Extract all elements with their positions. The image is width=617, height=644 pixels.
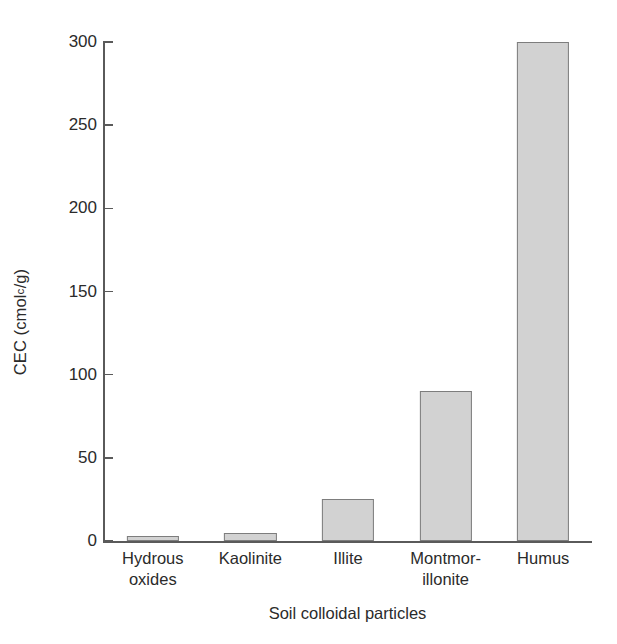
x-category-label: Hydrousoxides: [104, 548, 202, 590]
bar[interactable]: [419, 391, 471, 541]
x-category-label-line2: oxides: [104, 569, 202, 590]
y-tick-label: 150: [41, 282, 97, 302]
bar-slot: [104, 42, 202, 541]
y-tick-label: 250: [41, 115, 97, 135]
x-category-label: Humus: [494, 548, 592, 569]
x-category-label-line1: Illite: [333, 549, 362, 567]
y-axis-title: CEC (cmolc/g): [0, 0, 40, 644]
x-category-label-line1: Hydrous: [122, 549, 183, 567]
x-category-label: Montmor-illonite: [397, 548, 495, 590]
x-category-label-line1: Humus: [517, 549, 569, 567]
y-tick-label: 50: [41, 448, 97, 468]
y-tick-label: 300: [41, 32, 97, 52]
bar-chart-figure: CEC (cmolc/g) 050100150200250300 Hydrous…: [0, 0, 617, 644]
x-axis-line: [103, 541, 592, 543]
bar[interactable]: [517, 42, 569, 541]
y-axis-title-prefix: CEC (cmol: [11, 295, 30, 376]
x-category-label: Illite: [299, 548, 397, 569]
x-category-label-line1: Kaolinite: [219, 549, 282, 567]
y-tick-label: 200: [41, 198, 97, 218]
bar-slot: [299, 42, 397, 541]
y-tick-label: 100: [41, 365, 97, 385]
x-category-label-line1: Montmor-: [410, 549, 481, 567]
y-axis-title-subscript: c: [14, 288, 26, 294]
y-axis-title-suffix: /g): [11, 269, 30, 289]
x-category-label: Kaolinite: [202, 548, 300, 569]
bar-slot: [202, 42, 300, 541]
y-tick-label: 0: [41, 531, 97, 551]
bar-slot: [494, 42, 592, 541]
bar-slot: [397, 42, 495, 541]
bar[interactable]: [224, 533, 276, 541]
x-category-label-line2: illonite: [397, 569, 495, 590]
bar[interactable]: [322, 499, 374, 541]
x-axis-title: Soil colloidal particles: [103, 604, 592, 623]
plot-area: [104, 42, 592, 541]
